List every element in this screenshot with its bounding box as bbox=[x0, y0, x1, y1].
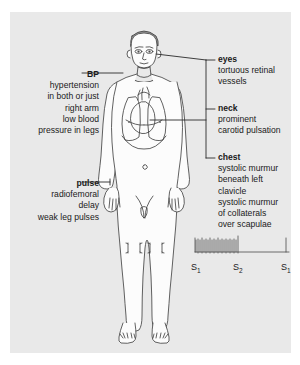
callout-chest-line: over scapulae bbox=[218, 219, 278, 230]
callout-pulse-line: radiofemoral bbox=[38, 189, 99, 200]
callout-chest-line: clavicle bbox=[218, 186, 278, 197]
callout-chest: chest systolic murmur beneath left clavi… bbox=[218, 152, 278, 230]
heart-sound-label-s2: S2 bbox=[233, 262, 243, 274]
callout-chest-line: beneath left bbox=[218, 174, 278, 185]
callout-chest-line: of collaterals bbox=[218, 208, 278, 219]
callout-chest-line: systolic murmur bbox=[218, 163, 278, 174]
callout-pulse-line: weak leg pulses bbox=[38, 212, 99, 223]
callout-eyes: eyes tortuous retinal vessels bbox=[218, 54, 275, 88]
callout-bp-line: low blood bbox=[38, 114, 99, 125]
callout-neck-line: prominent bbox=[218, 114, 281, 125]
callout-chest-line: systolic murmur bbox=[218, 197, 278, 208]
callout-pulse: pulse radiofemoral delay weak leg pulses bbox=[38, 178, 99, 223]
callout-neck-line: carotid pulsation bbox=[218, 125, 281, 136]
callout-bp: BP hypertension in both or just right ar… bbox=[38, 69, 99, 136]
systolic-murmur-spikes bbox=[196, 238, 236, 253]
callout-pulse-line: delay bbox=[38, 200, 99, 211]
callout-bp-line: hypertension bbox=[38, 80, 99, 91]
callout-bp-heading: BP bbox=[38, 69, 99, 80]
callout-chest-heading: chest bbox=[218, 152, 278, 163]
callout-neck-heading: neck bbox=[218, 103, 281, 114]
callout-bp-line: pressure in legs bbox=[38, 125, 99, 136]
callout-neck: neck prominent carotid pulsation bbox=[218, 103, 281, 137]
figure-panel: BP hypertension in both or just right ar… bbox=[10, 12, 291, 353]
heart-sound-label-s1-second: S1 bbox=[281, 262, 291, 274]
callout-pulse-heading: pulse bbox=[38, 178, 99, 189]
callout-eyes-line: vessels bbox=[218, 76, 275, 87]
callout-eyes-heading: eyes bbox=[218, 54, 275, 65]
callout-bp-line: right arm bbox=[38, 103, 99, 114]
heart-sound-label-s1-first: S1 bbox=[191, 262, 201, 274]
callout-eyes-line: tortuous retinal bbox=[218, 65, 275, 76]
callout-bp-line: in both or just bbox=[38, 91, 99, 102]
